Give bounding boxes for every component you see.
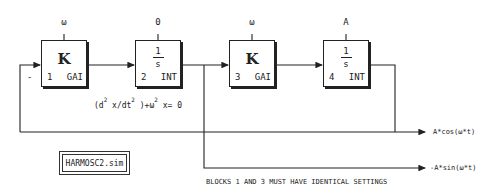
eq-sup: 2 xyxy=(154,96,158,103)
block-type: GAI xyxy=(67,72,83,82)
block-2-param: 0 xyxy=(148,17,168,27)
eq-sup: 2 xyxy=(131,96,135,103)
output-cos-label: A*cos(ω*t) xyxy=(433,128,475,136)
eq-part: )+ω xyxy=(135,101,154,110)
eq-part: (d xyxy=(94,101,104,110)
eq-part: x/dt xyxy=(107,101,131,110)
integrator-symbol: 1 s xyxy=(324,46,368,69)
output-sin-label: -A*sin(ω*t) xyxy=(430,164,476,172)
block-type: GAI xyxy=(255,72,271,82)
fraction-numerator: 1 xyxy=(343,46,348,56)
settings-note: BLOCKS 1 AND 3 MUST HAVE IDENTICAL SETTI… xyxy=(206,178,387,186)
feedback-sign: - xyxy=(27,72,32,82)
integrator-symbol: 1 s xyxy=(136,46,180,69)
block-4-param: A xyxy=(336,17,356,27)
block-1-param: ω xyxy=(54,17,74,27)
gain-symbol: K xyxy=(42,50,86,68)
eq-part: x= 0 xyxy=(158,101,182,110)
block-number: 4 xyxy=(329,72,334,82)
block-4-integrator[interactable]: 1 s 4 INT xyxy=(323,40,369,87)
block-3-gain[interactable]: K 3 GAI xyxy=(229,40,275,87)
block-type: INT xyxy=(349,72,365,82)
eq-sup: 2 xyxy=(104,96,108,103)
differential-equation: (d2 x/dt2 )+ω2 x= 0 xyxy=(94,98,182,110)
file-label-box: HARMOSC2.sim xyxy=(59,151,130,175)
block-number: 2 xyxy=(141,72,146,82)
block-number: 1 xyxy=(47,72,52,82)
gain-symbol: K xyxy=(230,50,274,68)
fraction-bar xyxy=(341,57,352,58)
block-2-integrator[interactable]: 1 s 2 INT xyxy=(135,40,181,87)
fraction-bar xyxy=(153,57,164,58)
block-3-param: ω xyxy=(242,17,262,27)
block-1-gain[interactable]: K 1 GAI xyxy=(41,40,87,87)
fraction-denominator: s xyxy=(343,59,348,69)
fraction-numerator: 1 xyxy=(155,46,160,56)
fraction-denominator: s xyxy=(155,59,160,69)
file-label: HARMOSC2.sim xyxy=(62,154,127,172)
block-type: INT xyxy=(161,72,177,82)
block-number: 3 xyxy=(235,72,240,82)
